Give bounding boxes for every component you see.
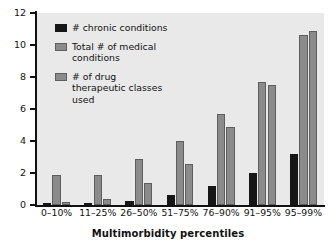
bar (290, 154, 298, 205)
bar (249, 173, 257, 205)
bar-group (249, 13, 276, 205)
y-axis-tick-label: 8 (20, 72, 26, 82)
legend-swatch-icon (55, 43, 67, 51)
legend-item: # chronic conditions (55, 22, 170, 34)
bar (125, 201, 133, 205)
y-axis-tick: 10 (30, 44, 35, 45)
y-axis-tick: 12 (30, 12, 35, 13)
bar-group (167, 13, 194, 205)
x-axis-tick-label: 91–95% (242, 208, 283, 217)
x-axis-title: Multimorbidity percentiles (0, 228, 336, 239)
legend-swatch-icon (55, 24, 67, 32)
legend-swatch-icon (55, 73, 67, 81)
legend-item: # of drug therapeutic classes used (55, 71, 170, 106)
y-axis-tick-label: 4 (20, 136, 26, 146)
x-axis-tick-label: 26–50% (118, 208, 159, 217)
y-axis-tick-label: 0 (20, 200, 26, 210)
bar (43, 203, 51, 205)
bar (309, 31, 317, 205)
chart-legend: # chronic conditionsTotal # of medical c… (55, 22, 170, 112)
legend-label: # chronic conditions (72, 22, 167, 34)
bar (94, 175, 102, 205)
bar (217, 114, 225, 205)
bar-chart: 024681012 0–10%11–25%26–50%51–75%76–90%9… (0, 0, 336, 248)
y-axis-tick-label: 2 (20, 168, 26, 178)
bar (268, 85, 276, 205)
legend-label: # of drug therapeutic classes used (72, 71, 170, 106)
bar (52, 175, 60, 205)
bar (226, 127, 234, 205)
bar-group (290, 13, 317, 205)
bar (258, 82, 266, 205)
legend-item: Total # of medical conditions (55, 41, 170, 64)
y-axis-tick-label: 10 (14, 40, 26, 50)
bar (167, 195, 175, 205)
y-axis-tick: 2 (30, 172, 35, 173)
bar (135, 159, 143, 205)
bar (176, 141, 184, 205)
x-axis-tick-label: 95–99% (283, 208, 324, 217)
bar (144, 183, 152, 205)
bar-group (208, 13, 235, 205)
legend-label: Total # of medical conditions (72, 41, 170, 64)
y-axis-tick: 8 (30, 76, 35, 77)
x-axis-tick-label: 11–25% (77, 208, 118, 217)
y-axis-tick: 4 (30, 140, 35, 141)
y-axis-tick: 0 (30, 204, 35, 205)
bar (103, 199, 111, 205)
y-axis-tick-label: 6 (20, 104, 26, 114)
bar (208, 186, 216, 205)
bar (84, 203, 92, 205)
y-axis-tick-label: 12 (14, 8, 26, 18)
bar (299, 35, 307, 205)
x-axis-tick-label: 76–90% (201, 208, 242, 217)
x-axis-tick-label: 0–10% (36, 208, 77, 217)
bar (185, 164, 193, 205)
y-axis-tick: 6 (30, 108, 35, 109)
bar (62, 202, 70, 205)
x-axis-tick-label: 51–75% (159, 208, 200, 217)
